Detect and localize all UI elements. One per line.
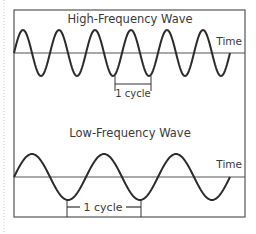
- low-frequency-title: Low-Frequency Wave: [69, 126, 190, 140]
- wave-frequency-diagram: High-Frequency Wave Time 1 cycle Low-Fre…: [0, 0, 256, 234]
- high-frequency-title: High-Frequency Wave: [67, 12, 192, 26]
- high-frequency-cycle-label: 1 cycle: [115, 88, 150, 99]
- low-frequency-cycle-label: 1 cycle: [84, 201, 123, 214]
- high-frequency-time-label: Time: [215, 35, 242, 47]
- low-frequency-time-label: Time: [215, 158, 242, 170]
- low-frequency-panel: Low-Frequency Wave Time 1 cycle: [14, 126, 245, 217]
- high-frequency-panel: High-Frequency Wave Time 1 cycle: [14, 12, 245, 99]
- diagram-frame: [14, 10, 245, 217]
